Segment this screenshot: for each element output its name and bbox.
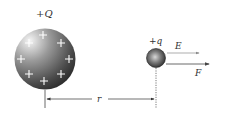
distance-dimension: r — [47, 94, 154, 104]
charge-diagram: +Q +q E F r — [0, 0, 225, 115]
electric-field-label: E — [174, 41, 182, 51]
test-charge-sphere — [147, 49, 166, 68]
source-charge-label: +Q — [36, 8, 53, 19]
source-charge-sphere — [15, 29, 76, 90]
test-charge-label: +q — [149, 36, 163, 46]
distance-label: r — [97, 94, 102, 104]
force-label: F — [194, 68, 202, 78]
